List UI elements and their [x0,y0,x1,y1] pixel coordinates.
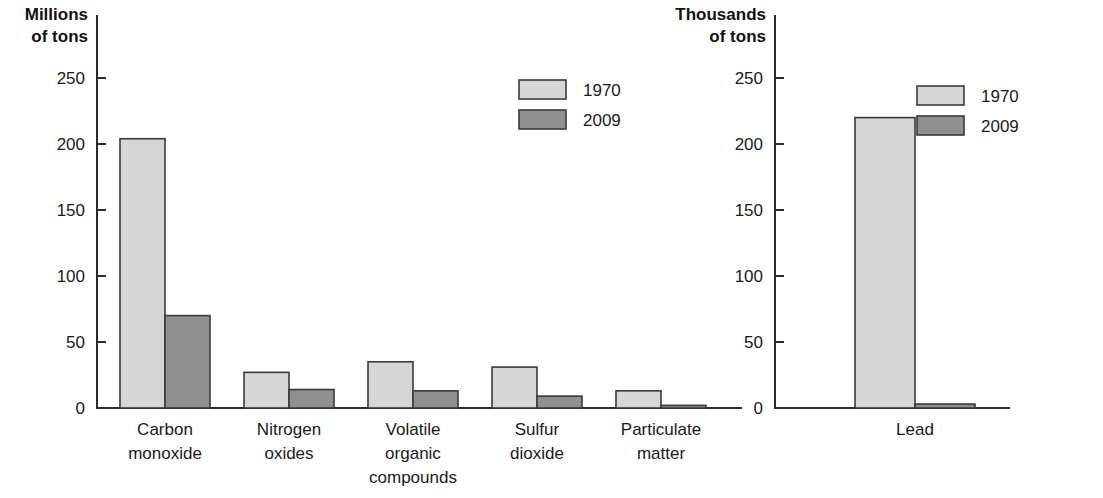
y-axis-title-line: of tons [709,27,766,46]
y-axis-tick-label: 50 [744,333,763,352]
x-axis-category-label-line: compounds [369,468,457,487]
bar-2009-volatile-organic-compounds [413,391,458,408]
bar-2009-sulfur-dioxide [537,396,582,408]
x-axis-category-label-line: dioxide [510,444,564,463]
x-axis-category-label-line: Volatile [386,420,441,439]
bar-1970-carbon-monoxide [120,139,165,408]
y-axis-tick-label: 0 [76,399,85,418]
x-axis-category-label-line: organic [385,444,441,463]
x-axis-category-label-line: oxides [264,444,313,463]
bar-2009-lead [915,404,975,408]
legend-label-1970: 1970 [981,87,1019,106]
bar-2009-carbon-monoxide [165,316,210,408]
bar-1970-particulate-matter [616,391,661,408]
y-axis-tick-label: 100 [735,267,763,286]
bar-1970-volatile-organic-compounds [368,362,413,408]
x-axis-category-label-line: Lead [896,420,934,439]
y-axis-tick-label: 200 [735,135,763,154]
bar-2009-nitrogen-oxides [289,390,334,408]
y-axis-tick-label: 150 [57,201,85,220]
x-axis-category-label-line: Sulfur [515,420,560,439]
x-axis-category-label-line: Particulate [621,420,701,439]
legend-swatch-2009 [519,110,566,129]
bar-1970-sulfur-dioxide [492,367,537,408]
x-axis-category-label-line: Nitrogen [257,420,321,439]
bar-1970-nitrogen-oxides [244,372,289,408]
y-axis-tick-label: 250 [735,69,763,88]
y-axis-title-line: Millions [25,5,88,24]
y-axis-tick-label: 0 [754,399,763,418]
y-axis-title-line: Thousands [675,5,766,24]
x-axis-category-label-line: Carbon [137,420,193,439]
bar-1970-lead [855,118,915,408]
y-axis-tick-label: 200 [57,135,85,154]
y-axis-tick-label: 250 [57,69,85,88]
legend-swatch-1970 [519,80,566,99]
chart-panel-millions-of-tons: Millionsof tons050100150200250Carbonmono… [25,5,742,487]
legend-swatch-1970 [917,86,964,105]
y-axis-tick-label: 150 [735,201,763,220]
legend-label-2009: 2009 [981,117,1019,136]
y-axis-tick-label: 100 [57,267,85,286]
y-axis-tick-label: 50 [66,333,85,352]
legend-swatch-2009 [917,116,964,135]
bar-2009-particulate-matter [661,405,706,408]
chart-panel-thousands-of-tons: Thousandsof tons050100150200250Lead19702… [675,5,1019,439]
legend-label-2009: 2009 [583,111,621,130]
y-axis-title-line: of tons [31,27,88,46]
x-axis-category-label-line: matter [637,444,686,463]
legend-label-1970: 1970 [583,81,621,100]
emissions-figure: Millionsof tons050100150200250Carbonmono… [0,0,1103,498]
x-axis-category-label-line: monoxide [128,444,202,463]
